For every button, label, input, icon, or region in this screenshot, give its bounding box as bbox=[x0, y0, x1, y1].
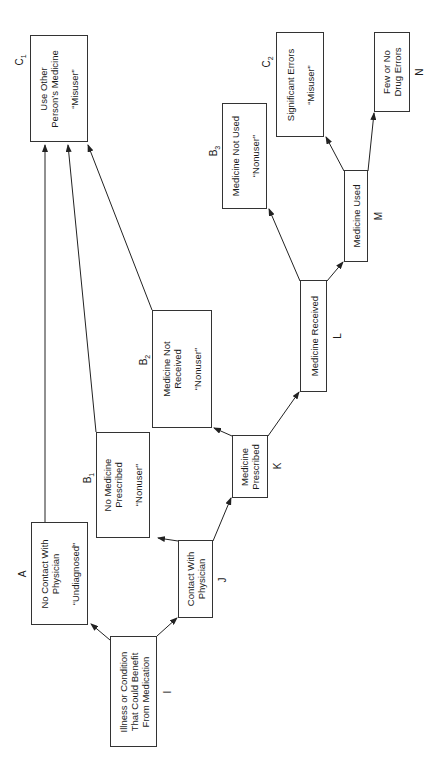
node-k-line-2: Prescribed bbox=[250, 444, 261, 489]
node-j-line-2: Physician bbox=[196, 552, 207, 606]
label-a: A bbox=[15, 566, 31, 582]
label-m: M bbox=[371, 208, 387, 224]
node-b1-line-1: No Medicine bbox=[102, 459, 113, 512]
node-b2-line-2: Received bbox=[172, 341, 183, 396]
node-n-line-1: Few or No bbox=[381, 47, 392, 96]
node-b2-line-1: Medicine Not bbox=[161, 341, 172, 396]
node-n-line-2: Drug Errors bbox=[392, 47, 403, 96]
node-b3-category: “Nonuser” bbox=[249, 116, 260, 196]
node-c1-line-1: Use Other bbox=[38, 50, 49, 127]
label-k: K bbox=[270, 458, 286, 474]
arrow-I-to-A bbox=[91, 624, 110, 640]
node-i-line-1: Illness or Condition bbox=[117, 651, 128, 732]
node-i-line-3: From Medication bbox=[139, 651, 150, 732]
label-b2: B2 bbox=[136, 352, 152, 368]
node-c1-misuser: Use Other Person’s Medicine “Misuser” bbox=[30, 35, 88, 142]
label-l: L bbox=[330, 328, 346, 344]
node-n-few-errors: Few or No Drug Errors bbox=[374, 32, 410, 112]
label-j: J bbox=[215, 572, 231, 588]
node-c2-category: “Misuser” bbox=[305, 48, 316, 120]
label-b3: B3 bbox=[206, 143, 222, 159]
node-a-category: “Undiagnosed” bbox=[70, 539, 81, 608]
node-m-line-1: Medicine Used bbox=[351, 185, 362, 248]
label-i: I bbox=[160, 684, 176, 700]
node-l-medicine-received: Medicine Received bbox=[300, 280, 327, 392]
node-j-contact-physician: Contact With Physician bbox=[178, 540, 213, 618]
node-j-line-1: Contact With bbox=[185, 552, 196, 606]
label-n: N bbox=[412, 64, 428, 80]
node-b2-category: “Nonuser” bbox=[192, 341, 203, 396]
node-c1-category: “Misuser” bbox=[69, 50, 80, 127]
node-i-illness: Illness or Condition That Could Benefit … bbox=[110, 636, 157, 747]
label-c1: C1 bbox=[12, 52, 28, 68]
node-b3-nonuser: Medicine Not Used “Nonuser” bbox=[222, 103, 267, 209]
node-c2-misuser: Significant Errors “Misuser” bbox=[276, 32, 324, 137]
node-c2-line-1: Significant Errors bbox=[285, 48, 296, 120]
node-b1-nonuser: No Medicine Prescribed “Nonuser” bbox=[96, 432, 150, 538]
node-a-undiagnosed: No Contact With Physician “Undiagnosed” bbox=[31, 522, 88, 625]
node-l-line-1: Medicine Received bbox=[308, 296, 319, 376]
node-k-medicine-prescribed: Medicine Prescribed bbox=[232, 435, 268, 498]
label-b1: B1 bbox=[80, 470, 96, 486]
node-a-line-2: Physician bbox=[50, 539, 61, 608]
node-k-line-1: Medicine bbox=[239, 444, 250, 489]
node-b1-category: “Nonuser” bbox=[133, 459, 144, 512]
node-c1-line-2: Person’s Medicine bbox=[49, 50, 60, 127]
node-a-line-1: No Contact With bbox=[39, 539, 50, 608]
node-b3-line-1: Medicine Not Used bbox=[229, 116, 240, 196]
node-m-medicine-used: Medicine Used bbox=[344, 170, 368, 262]
node-b2-nonuser: Medicine Not Received “Nonuser” bbox=[152, 310, 212, 428]
node-b1-line-2: Prescribed bbox=[113, 459, 124, 512]
node-i-line-2: That Could Benefit bbox=[128, 651, 139, 732]
label-c2: C2 bbox=[259, 54, 275, 70]
